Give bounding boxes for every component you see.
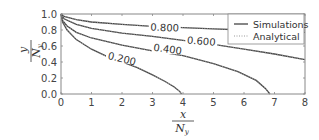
svg-text:y: y [17,46,30,54]
svg-text:Ny: Ny [174,122,190,136]
x-axis-label: x Ny [172,108,194,136]
x-tick-label: 4 [180,97,186,108]
y-tick-label: 0.2 [41,73,57,84]
y-tick-label: 1.0 [41,9,57,20]
x-tick-label: 5 [210,97,216,108]
legend-analytical: Analytical [253,31,300,42]
svg-text:x: x [180,108,187,121]
svg-text:Ny: Ny [30,43,44,59]
y-tick-label: 0.0 [41,89,57,100]
y-tick-label: 0.8 [41,25,57,36]
x-tick-label: 1 [88,97,94,108]
legend: Simulations Analytical [228,14,309,44]
contour-label: 0.200 [107,50,137,68]
contour-chart: 0.2000.4000.6000.800 012345678 0.00.20.4… [0,0,319,140]
contour-label: 0.800 [150,22,179,34]
x-tick-label: 7 [271,97,277,108]
x-tick-label: 2 [119,97,125,108]
x-tick-label: 0 [58,97,64,108]
x-tick-label: 8 [302,97,308,108]
x-tick-label: 6 [241,97,247,108]
x-tick-label: 3 [149,97,155,108]
legend-simulations: Simulations [253,19,309,30]
y-axis-label: y Ny [17,40,44,62]
y-tick-label: 0.4 [41,57,57,68]
